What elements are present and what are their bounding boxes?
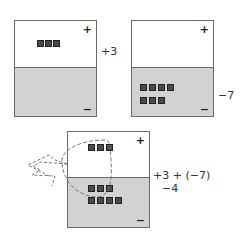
dashed-loop-arrow-icon <box>0 0 243 234</box>
